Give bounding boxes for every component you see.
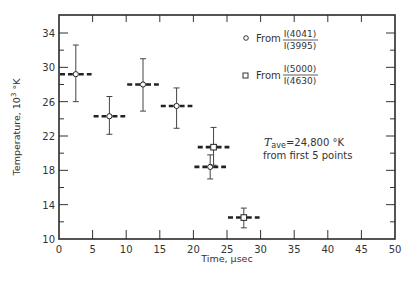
annotation-line2: from first 5 points [263, 150, 352, 161]
x-tick-label: 45 [355, 244, 368, 255]
circle-marker-icon [73, 72, 78, 77]
y-axis-label: Temperature, 103 °K [10, 78, 22, 177]
data-point-square [198, 127, 230, 165]
x-tick-label: 40 [321, 244, 334, 255]
circle-marker-icon [140, 82, 145, 87]
y-tick-label: 26 [42, 97, 55, 108]
square-marker-icon [241, 215, 247, 221]
svg-text:Tave=24,800 °K: Tave=24,800 °K [264, 136, 344, 150]
square-marker-icon [243, 73, 248, 78]
data-point-square [228, 208, 260, 228]
x-tick-label: 30 [254, 244, 267, 255]
x-tick-label: 5 [89, 244, 95, 255]
circle-marker-icon [107, 114, 112, 119]
data-point-circle [127, 59, 159, 111]
circle-marker-icon [244, 36, 249, 41]
legend-numerator: I(5000) [284, 64, 317, 74]
average-annotation: Tave=24,800 °K from first 5 points [263, 136, 352, 161]
annotation-value: =24,800 °K [286, 137, 345, 148]
data-point-circle [94, 97, 126, 135]
x-tick-label: 50 [389, 244, 402, 255]
axis-ticks: 0510152025303540455010141822263034 [42, 15, 401, 255]
x-tick-label: 0 [56, 244, 62, 255]
legend-denominator: I(3995) [284, 41, 317, 51]
circle-marker-icon [174, 103, 179, 108]
x-tick-label: 10 [120, 244, 133, 255]
legend: From I(4041) I(3995) From I(5000) I(4630… [243, 29, 318, 86]
y-axis-label-unit: °K [11, 78, 22, 93]
legend-item-square: From I(5000) I(4630) [243, 64, 318, 86]
data-points [60, 45, 260, 228]
data-point-circle [60, 45, 92, 102]
legend-item-circle: From I(4041) I(3995) [244, 29, 318, 51]
legend-denominator: I(4630) [284, 76, 317, 86]
svg-text:From: From [256, 70, 281, 81]
temperature-vs-time-chart: 0510152025303540455010141822263034 Time,… [0, 0, 418, 281]
annotation-subscript: ave [271, 141, 286, 150]
x-tick-label: 15 [153, 244, 166, 255]
y-tick-label: 34 [42, 28, 55, 39]
square-marker-icon [211, 144, 217, 150]
y-tick-label: 10 [42, 234, 55, 245]
y-tick-label: 30 [42, 62, 55, 73]
y-tick-label: 22 [42, 131, 55, 142]
y-tick-label: 14 [42, 200, 55, 211]
legend-numerator: I(4041) [284, 29, 317, 39]
data-point-circle [161, 88, 193, 128]
y-axis-label-main: Temperature, 10 [11, 97, 22, 176]
x-axis-label: Time, μsec [200, 253, 252, 264]
x-tick-label: 35 [288, 244, 301, 255]
x-tick-label: 20 [187, 244, 200, 255]
y-tick-label: 18 [42, 165, 55, 176]
data-point-circle [194, 155, 226, 179]
svg-text:From: From [256, 33, 281, 44]
